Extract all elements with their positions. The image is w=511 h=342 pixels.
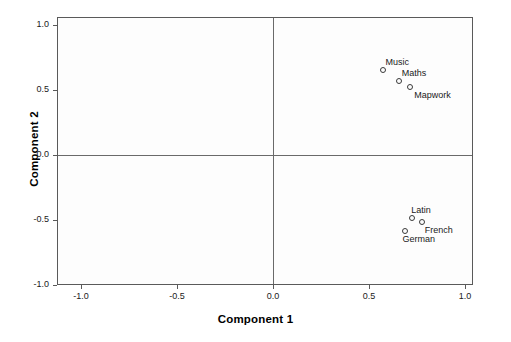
data-point-marker <box>380 67 386 73</box>
data-point-marker <box>409 215 415 221</box>
component-plot-figure: Component 2 1.00.50.0-0.5-1.0 -1.0-0.50.… <box>0 0 511 342</box>
y-tick-label: 1.0 <box>13 19 49 29</box>
data-point-label: Latin <box>411 205 431 215</box>
data-point-marker <box>396 78 402 84</box>
data-point-label: Maths <box>402 68 427 78</box>
x-tick-mark <box>465 285 466 289</box>
data-point-marker <box>407 84 413 90</box>
data-point-label: Music <box>385 57 409 67</box>
x-axis-title: Component 1 <box>0 313 511 325</box>
horizontal-zero-axis-line <box>58 155 472 156</box>
x-tick-label: 1.0 <box>445 291 485 301</box>
x-tick-label: 0.5 <box>349 291 389 301</box>
data-point-label: German <box>403 234 436 244</box>
y-tick-label: 0.5 <box>13 84 49 94</box>
vertical-zero-axis-line <box>273 18 274 284</box>
data-point-label: Mapwork <box>414 90 451 100</box>
x-tick-label: 0.0 <box>253 291 293 301</box>
plot-area: MusicMathsMapworkLatinFrenchGerman <box>57 17 473 285</box>
x-tick-label: -1.0 <box>61 291 101 301</box>
x-tick-mark <box>273 285 274 289</box>
x-tick-label: -0.5 <box>157 291 197 301</box>
x-tick-mark <box>177 285 178 289</box>
x-tick-mark <box>369 285 370 289</box>
y-tick-label: -0.5 <box>13 214 49 224</box>
y-tick-mark <box>53 285 57 286</box>
y-tick-label: 0.0 <box>13 149 49 159</box>
x-tick-mark <box>81 285 82 289</box>
y-tick-label: -1.0 <box>13 279 49 289</box>
